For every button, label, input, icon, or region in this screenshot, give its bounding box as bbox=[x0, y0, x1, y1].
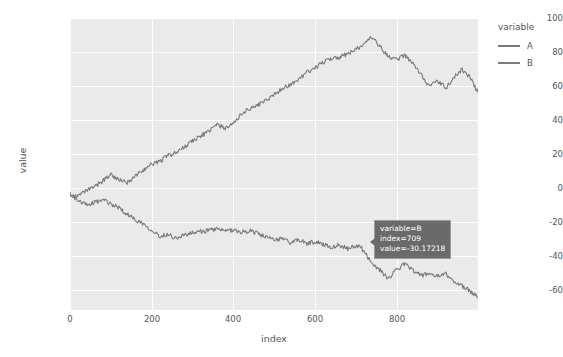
legend-item-a[interactable]: A bbox=[498, 39, 560, 53]
legend-label-b: B bbox=[527, 58, 533, 68]
legend-swatch-b-icon bbox=[498, 62, 520, 64]
series-line-a[interactable] bbox=[70, 37, 478, 198]
y-tick-label-0: 0 bbox=[501, 183, 563, 193]
x-axis-title: index bbox=[70, 333, 478, 344]
legend-label-a: A bbox=[527, 41, 533, 51]
plot-area[interactable] bbox=[70, 18, 478, 310]
tooltip-variable: variable=B bbox=[380, 224, 445, 234]
tooltip-index: index=709 bbox=[380, 234, 445, 244]
legend-item-b[interactable]: B bbox=[498, 56, 560, 70]
legend-swatch-a-icon bbox=[498, 45, 520, 47]
x-tick-label-800: 800 bbox=[377, 314, 417, 324]
tooltip-value: value=-30.17218 bbox=[380, 244, 445, 254]
x-tick-label-600: 600 bbox=[295, 314, 335, 324]
x-tick-label-200: 200 bbox=[132, 314, 172, 324]
hover-tooltip: variable=B index=709 value=-30.17218 bbox=[375, 221, 450, 258]
series-canvas bbox=[70, 18, 478, 310]
y-tick-label-neg60: -60 bbox=[501, 285, 563, 295]
chart-figure: value 100 80 60 40 20 0 -20 -40 -60 0 20… bbox=[0, 0, 563, 357]
legend-title: variable bbox=[498, 22, 560, 32]
y-tick-label-neg40: -40 bbox=[501, 251, 563, 261]
y-axis-title: value bbox=[17, 131, 28, 191]
x-tick-label-400: 400 bbox=[213, 314, 253, 324]
y-tick-label-neg20: -20 bbox=[501, 217, 563, 227]
legend: variable A B bbox=[498, 22, 560, 73]
y-tick-label-60: 60 bbox=[501, 81, 563, 91]
x-tick-label-0: 0 bbox=[50, 314, 90, 324]
y-tick-label-20: 20 bbox=[501, 149, 563, 159]
y-tick-label-40: 40 bbox=[501, 115, 563, 125]
